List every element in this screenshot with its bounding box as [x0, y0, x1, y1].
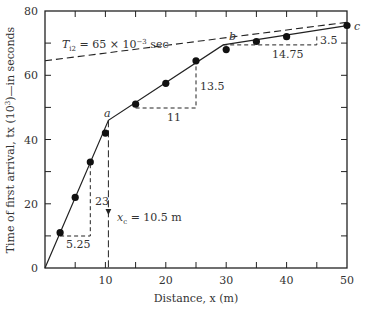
point-c-label: c — [354, 20, 360, 33]
travel-time-chart: 0 20 40 60 80 10 20 30 40 50 Distance, x… — [0, 0, 386, 312]
x-tick-label-30: 30 — [219, 274, 233, 287]
y-tick-label-40: 40 — [24, 134, 38, 147]
slope1-run-label: 5.25 — [66, 238, 91, 251]
x-tick-label-50: 50 — [340, 274, 354, 287]
x-tick-label-40: 40 — [280, 274, 294, 287]
slope2-run-label: 11 — [167, 111, 181, 124]
slope1-rise-label: 23 — [95, 195, 109, 208]
y-tick-label-60: 60 — [24, 69, 38, 82]
x-axis-label: Distance, x (m) — [154, 292, 238, 305]
slope2-rise-label: 13.5 — [200, 80, 225, 93]
y-tick-label-0: 0 — [31, 262, 38, 275]
point-a-label: a — [104, 107, 111, 120]
slope3-rise-label: 3.5 — [320, 34, 338, 47]
slope3-run-label: 14.75 — [272, 48, 304, 61]
y-tick-label-80: 80 — [24, 5, 38, 18]
y-tick-label-20: 20 — [24, 198, 38, 211]
crossover-arrow-icon — [106, 209, 112, 215]
y-axis-label: Time of first arrival, tx (103)—in secon… — [4, 26, 17, 253]
point-b-label: b — [229, 30, 236, 43]
crossover-annotation: xc = 10.5 m — [117, 211, 182, 226]
intercept-annotation: Ti2 = 65 × 10−3 sec — [62, 38, 169, 53]
x-tick-label-10: 10 — [98, 274, 112, 287]
x-tick-label-20: 20 — [159, 274, 173, 287]
